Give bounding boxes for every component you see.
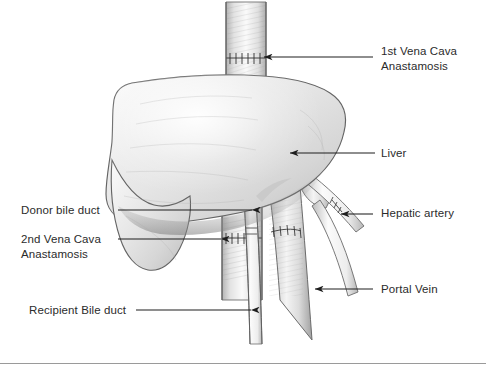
label-second-vena-cava-anastomosis: 2nd Vena Cava Anastamosis (21, 232, 101, 261)
liver-transplant-diagram: 1st Vena Cava Anastamosis Liver Hepatic … (0, 0, 486, 380)
label-hepatic-artery: Hepatic artery (381, 206, 454, 221)
label-portal-vein: Portal Vein (381, 282, 438, 297)
label-first-vena-cava-anastomosis: 1st Vena Cava Anastamosis (381, 44, 457, 73)
superior-vena-cava-group (226, 2, 266, 84)
bottom-divider (0, 363, 486, 364)
label-liver: Liver (381, 146, 406, 161)
label-recipient-bile-duct: Recipient Bile duct (29, 303, 126, 318)
label-donor-bile-duct: Donor bile duct (21, 203, 100, 218)
